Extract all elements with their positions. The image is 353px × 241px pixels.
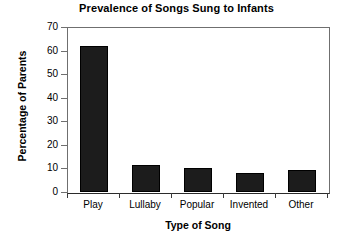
bar [184,168,212,192]
y-tick-label: 0 [52,185,58,198]
x-tick-label: Other [275,198,327,212]
bar [288,170,316,192]
bar-chart: Prevalence of Songs Sung to Infants Perc… [0,0,353,241]
bars-layer [68,28,328,192]
y-tick-label: 10 [47,161,58,174]
x-axis-title: Type of Song [67,219,329,231]
x-tick-label: Invented [223,198,275,212]
y-tick-label: 50 [47,67,58,80]
x-tick-label: Play [67,198,119,212]
chart-title: Prevalence of Songs Sung to Infants [0,2,353,15]
x-tick-label: Popular [171,198,223,212]
x-tick-label: Lullaby [119,198,171,212]
y-tick-label: 30 [47,114,58,127]
y-axis-ticks: 010203040506070 [0,27,67,193]
bar [132,165,160,192]
y-tick-label: 60 [47,44,58,57]
bar [236,173,264,192]
y-tick-label: 70 [47,20,58,33]
x-axis-labels: PlayLullabyPopularInventedOther [67,198,329,214]
y-tick-label: 20 [47,138,58,151]
y-tick-label: 40 [47,91,58,104]
bar [80,46,108,192]
